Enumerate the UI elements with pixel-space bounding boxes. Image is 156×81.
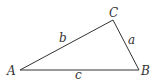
- side-label-a: a: [128, 33, 135, 47]
- side-b-line: [20, 20, 113, 70]
- vertex-label-a: A: [6, 64, 16, 78]
- vertex-label-c: C: [109, 6, 118, 20]
- side-label-b: b: [59, 31, 67, 45]
- vertex-label-b: B: [140, 64, 150, 78]
- side-label-c: c: [75, 68, 82, 81]
- triangle-diagram: A B C a b c: [0, 0, 156, 81]
